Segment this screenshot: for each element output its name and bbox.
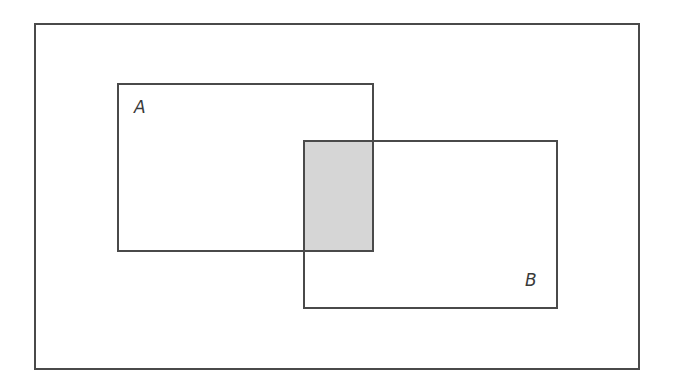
venn-diagram: A B bbox=[0, 0, 673, 388]
set-b-rectangle bbox=[303, 140, 558, 309]
set-a-label: A bbox=[134, 99, 146, 116]
set-b-label: B bbox=[525, 272, 537, 289]
